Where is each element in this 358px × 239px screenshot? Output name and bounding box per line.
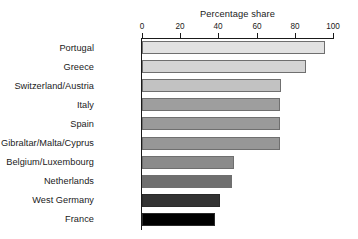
- x-axis-line: [142, 38, 334, 39]
- bar-row: [142, 41, 325, 54]
- category-label-spain: Spain: [0, 119, 94, 129]
- category-label-belgium-luxembourg: Belgium/Luxembourg: [0, 157, 94, 167]
- x-tick-80: [295, 33, 296, 38]
- category-label-gibraltar-malta-cyprus: Gibraltar/Malta/Cyprus: [0, 138, 94, 148]
- bar-row: [142, 137, 280, 150]
- bar-france: [142, 213, 215, 226]
- bar-row: [142, 213, 215, 226]
- bar-row: [142, 175, 232, 188]
- category-label-italy: Italy: [0, 100, 94, 110]
- bar-greece: [142, 60, 306, 73]
- bar-row: [142, 117, 280, 130]
- category-label-portugal: Portugal: [0, 43, 94, 53]
- bar-switzerland-austria: [142, 79, 281, 92]
- bar-italy: [142, 98, 280, 111]
- category-label-switzerland-austria: Switzerland/Austria: [0, 81, 94, 91]
- category-label-greece: Greece: [0, 62, 94, 72]
- x-tick-label-80: 80: [290, 22, 299, 31]
- x-tick-label-60: 60: [252, 22, 261, 31]
- bar-chart: Percentage share 020406080100 PortugalGr…: [0, 0, 358, 239]
- category-label-west-germany: West Germany: [0, 195, 94, 205]
- bar-spain: [142, 117, 280, 130]
- x-tick-60: [257, 33, 258, 38]
- x-tick-100: [333, 33, 334, 38]
- x-tick-0: [142, 33, 143, 38]
- bar-row: [142, 156, 234, 169]
- category-label-netherlands: Netherlands: [0, 176, 94, 186]
- bar-row: [142, 194, 220, 207]
- bar-west-germany: [142, 194, 220, 207]
- x-tick-label-40: 40: [213, 22, 222, 31]
- x-tick-40: [218, 33, 219, 38]
- bar-netherlands: [142, 175, 232, 188]
- category-label-france: France: [0, 214, 94, 224]
- x-axis-title: Percentage share: [142, 9, 333, 19]
- bar-belgium-luxembourg: [142, 156, 234, 169]
- bar-gibraltar-malta-cyprus: [142, 137, 280, 150]
- x-tick-label-100: 100: [326, 22, 340, 31]
- bar-row: [142, 60, 306, 73]
- x-tick-20: [180, 33, 181, 38]
- bar-portugal: [142, 41, 325, 54]
- x-tick-label-20: 20: [175, 22, 184, 31]
- x-tick-label-0: 0: [140, 22, 145, 31]
- bar-row: [142, 98, 280, 111]
- bar-row: [142, 79, 281, 92]
